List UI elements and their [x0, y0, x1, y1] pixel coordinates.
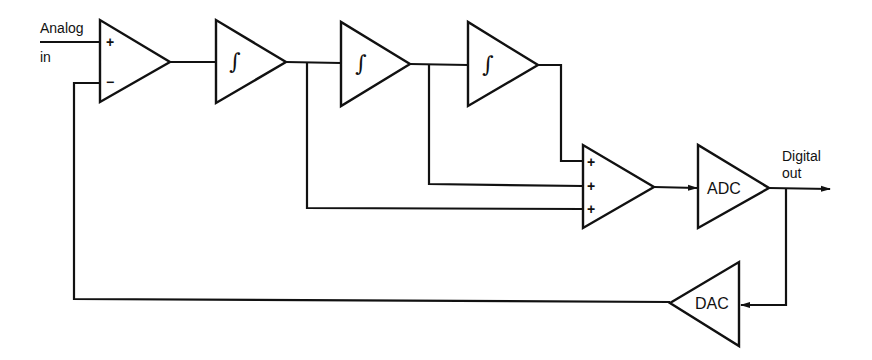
wire-int2-int3 — [410, 64, 468, 65]
integrator-1-symbol: ∫ — [229, 51, 240, 73]
output-summer-plus-2: + — [587, 179, 595, 193]
digital-out-label-line1: Digital — [782, 148, 821, 164]
integrator-2-block — [341, 22, 410, 106]
integrator-1-block — [216, 20, 286, 103]
wire-adc-dac — [741, 188, 786, 305]
integrator-2-symbol: ∫ — [355, 53, 366, 75]
output-summer-plus-1: + — [587, 155, 595, 169]
output-summer-plus-3: + — [587, 202, 595, 216]
dac-label: DAC — [695, 296, 729, 312]
wire-int3-sum2 — [538, 65, 583, 161]
diagram-canvas — [0, 0, 872, 360]
adc-label: ADC — [707, 181, 741, 197]
integrator-3-block — [468, 22, 538, 106]
input-summer-minus: − — [106, 75, 114, 89]
wire-int1-int2 — [286, 62, 341, 63]
feedback-wire — [74, 83, 670, 302]
digital-out-label-line2: out — [782, 165, 801, 181]
wire-digital-out — [769, 188, 830, 189]
analog-in-label-line2: in — [40, 49, 51, 65]
input-summer-plus: + — [106, 35, 114, 49]
wire-sum2-adc — [654, 187, 697, 188]
analog-in-label-line1: Analog — [40, 20, 84, 36]
integrator-3-symbol: ∫ — [482, 54, 493, 76]
